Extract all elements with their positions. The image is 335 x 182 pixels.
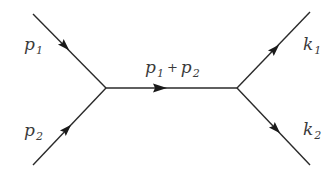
label-k1: k1 [303,36,321,53]
arrow-icon-propagator [153,84,167,93]
label-k2: k2 [303,121,321,138]
label-propagator-a-symbol: p [145,57,156,77]
label-p2: p2 [24,122,43,139]
label-propagator-a-subscript: 1 [157,67,164,80]
label-p1: p1 [24,36,43,53]
feynman-diagram [0,0,335,182]
label-k1-subscript: 1 [314,44,321,57]
label-k1-symbol: k [303,34,313,54]
label-propagator-operator: + [167,60,178,75]
label-propagator: p1+p2 [145,59,200,76]
label-k2-symbol: k [303,119,313,139]
label-p1-symbol: p [24,34,35,54]
label-propagator-b-symbol: p [181,57,192,77]
label-k2-subscript: 2 [314,129,321,142]
label-p2-symbol: p [24,120,35,140]
label-propagator-b-subscript: 2 [193,67,200,80]
label-p1-subscript: 1 [36,44,43,57]
incoming-line-p1 [33,14,106,88]
label-p2-subscript: 2 [36,130,43,143]
